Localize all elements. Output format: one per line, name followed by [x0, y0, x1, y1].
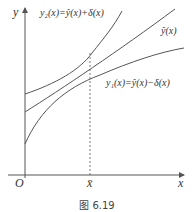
figure-caption: 图 6.19	[0, 197, 194, 212]
lower-bound-curve	[25, 48, 184, 144]
x-axis-label: x	[178, 177, 183, 189]
xbar-label: x̄	[87, 177, 92, 189]
y-axis-label: y	[13, 6, 18, 18]
regression-line-label: ŷ(x)	[161, 26, 177, 36]
lower-curve-label: y₁(x)=ŷ(x)−δ(x)	[106, 78, 170, 88]
regression-line	[25, 9, 175, 112]
upper-curve-label: y₂(x)=ŷ(x)+δ(x)	[40, 8, 104, 18]
origin-label: O	[15, 177, 24, 189]
